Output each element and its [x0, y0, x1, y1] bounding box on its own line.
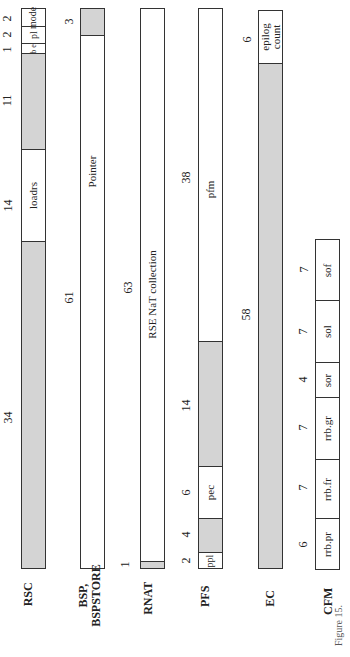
ec-field-reserved-58 [259, 63, 282, 568]
pfs-field-reserved-14 [199, 341, 222, 466]
ec-register: epilogcount [258, 10, 283, 569]
rsc-field-pl: pl [22, 26, 45, 43]
figure-caption: Figure 15. [333, 605, 344, 646]
cfm-bits-rrb-pr: 6 [296, 542, 311, 548]
rsc-field-loadrs: loadrs [22, 149, 45, 241]
rnat-label: RNAT [142, 582, 155, 615]
cfm-field-rrb-fr: rrb.fr [316, 459, 339, 518]
bsp-field-pointer: Pointer [81, 35, 104, 568]
pfs-bits-ppl: 2 [179, 558, 194, 564]
bsp-label: BSP, BSPSTORE [77, 564, 102, 626]
rnat-field-reserved-1 [141, 561, 164, 568]
rsc-field-be: b e [22, 43, 45, 53]
ec-bits-epilog-count: 6 [240, 37, 255, 43]
bsp-field-reserved-3 [81, 9, 104, 35]
rsc-register: mode pl b e loadrs [21, 8, 46, 569]
cfm-bits-sof: 7 [297, 267, 312, 273]
pfs-field-pec: pec [199, 466, 222, 518]
bsp-register: Pointer [80, 8, 105, 569]
ec-field-epilog-count: epilogcount [259, 11, 282, 63]
pfs-bits-reserved-4: 4 [179, 532, 194, 538]
cfm-bits-rrb-gr: 7 [296, 425, 311, 431]
rsc-bits-pl: 2 [0, 32, 15, 38]
cfm-register: sof sol sor rrb.gr rrb.fr rrb.pr [315, 239, 340, 570]
pfs-bits-pfm: 38 [179, 172, 194, 184]
cfm-field-sor: sor [316, 362, 339, 397]
rsc-bits-reserved-11: 11 [0, 95, 15, 107]
rnat-bits-nat-collection: 63 [121, 282, 136, 294]
cfm-bits-rrb-fr: 7 [296, 485, 311, 491]
bsp-bits-pointer: 61 [62, 292, 77, 304]
rsc-bits-be: 1 [0, 47, 15, 53]
cfm-bits-sol: 7 [296, 329, 311, 335]
rsc-field-reserved-34 [22, 241, 45, 568]
ec-bits-reserved-58: 58 [239, 309, 254, 321]
rnat-bits-reserved-1: 1 [118, 562, 133, 568]
rnat-register: RSE NaT collection [140, 8, 165, 569]
rsc-bits-loadrs: 14 [1, 200, 16, 212]
rsc-field-mode: mode [22, 9, 45, 26]
pfs-bits-pec: 6 [179, 490, 194, 496]
cfm-field-rrb-gr: rrb.gr [316, 397, 339, 459]
pfs-field-reserved-4 [199, 518, 222, 552]
pfs-label: PFS [199, 586, 212, 607]
rsc-field-reserved-11 [22, 53, 45, 149]
cfm-field-sol: sol [316, 300, 339, 362]
pfs-field-ppl: ppl [199, 552, 222, 568]
rnat-field-nat-collection: RSE NaT collection [141, 9, 164, 561]
pfs-register: pfm pec ppl [198, 8, 223, 569]
bsp-bits-reserved-3: 3 [62, 19, 77, 25]
rsc-bits-mode: 2 [0, 16, 15, 22]
pfs-bits-reserved-14: 14 [179, 400, 194, 412]
rsc-label: RSC [22, 582, 35, 606]
cfm-field-sof: sof [316, 240, 339, 300]
pfs-field-pfm: pfm [199, 9, 222, 341]
rsc-bits-reserved-34: 34 [1, 412, 16, 424]
cfm-bits-sor: 4 [296, 377, 311, 383]
cfm-field-rrb-pr: rrb.pr [316, 518, 339, 569]
ec-label: EC [264, 590, 277, 607]
